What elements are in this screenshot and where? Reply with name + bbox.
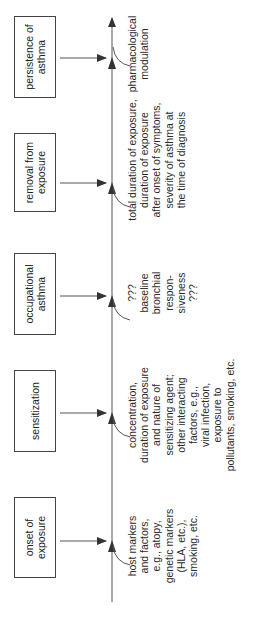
axis-arrowhead-removal (108, 182, 116, 194)
stage-box-removal: removal from exposure (14, 133, 56, 212)
stage-label-persistence: persistence of asthma (23, 17, 47, 97)
stage-label-sensitization: sensitization (29, 382, 41, 440)
note-sensitization: concentration, duration of exposure and … (126, 350, 236, 480)
axis-arrowhead-onset (108, 540, 116, 552)
axis-arrowhead-persistence (108, 57, 116, 69)
stage-label-removal: removal from exposure (23, 134, 47, 211)
stage-box-sensitization: sensitization (14, 370, 56, 452)
note-occupational-asthma: ??? baseline bronchial respon- siveness … (126, 258, 199, 328)
stage-box-persistence: persistence of asthma (14, 16, 56, 98)
axis-arrowhead-sensitization (108, 412, 116, 424)
note-onset: host markers and factors, e.g., atopy, g… (126, 498, 199, 594)
stage-box-occupational-asthma: occupational asthma (14, 253, 56, 335)
diagram-canvas: onset of exposure sensitization occupati… (0, 0, 264, 638)
stage-label-occupational-asthma: occupational asthma (23, 254, 47, 334)
axis-arrowhead-occupational (108, 295, 116, 307)
stage-label-onset: onset of exposure (23, 498, 47, 577)
note-removal: total duration of exposure, duration of … (126, 90, 187, 230)
stage-box-onset: onset of exposure (14, 497, 56, 578)
note-persistence: pharmacological modulation (126, 6, 150, 102)
